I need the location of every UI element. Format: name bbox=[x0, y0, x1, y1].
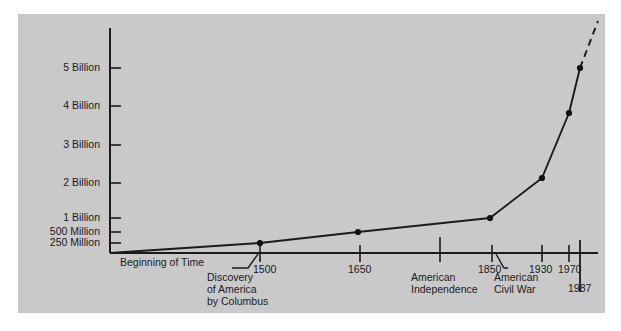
annotation-american-civil-war: American Civil War bbox=[494, 271, 538, 295]
y-tick-label-2-billion: 2 Billion bbox=[28, 177, 100, 188]
annotation-american-independence: American Independence bbox=[411, 271, 478, 295]
population-line bbox=[110, 68, 580, 253]
data-point-markers bbox=[257, 65, 583, 246]
population-projection-dashed bbox=[580, 21, 598, 68]
annotation-discovery-of-america: Discovery of America by Columbus bbox=[207, 271, 268, 307]
x-tick-label-1970: 1970 bbox=[558, 264, 581, 275]
chart-root: 5 Billion 4 Billion 3 Billion 2 Billion … bbox=[0, 0, 621, 331]
x-axis-origin-label: Beginning of Time bbox=[120, 257, 204, 268]
y-tick-label-4-billion: 4 Billion bbox=[28, 100, 100, 111]
x-tick-label-1650: 1650 bbox=[348, 264, 371, 275]
y-tick-label-3-billion: 3 Billion bbox=[28, 139, 100, 150]
y-tick-label-1-billion: 1 Billion bbox=[28, 212, 100, 223]
y-axis-ticks bbox=[110, 68, 121, 243]
y-tick-label-5-billion: 5 Billion bbox=[28, 62, 100, 73]
y-tick-label-250-million: 250 Million bbox=[18, 237, 100, 248]
x-tick-label-1987: 1987 bbox=[568, 283, 591, 294]
